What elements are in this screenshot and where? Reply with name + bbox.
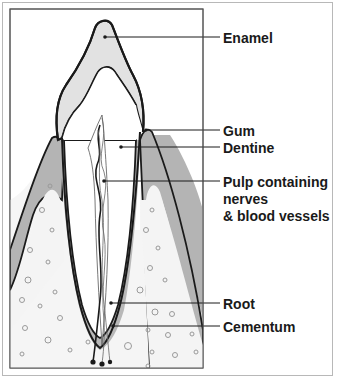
label-pulp-line1: Pulp containing [223,174,330,191]
nerve-end-2 [99,361,104,366]
root-dot [109,301,113,305]
nerve-end-3 [108,360,112,364]
label-pulp-line3: & blood vessels [223,208,330,225]
label-cementum: Cementum [223,319,295,335]
label-pulp-line2: nerves [223,191,330,208]
label-gum: Gum [223,123,255,139]
label-dentine: Dentine [223,140,274,156]
enamel-dot [103,35,107,39]
nerve-end-1 [90,359,95,364]
label-pulp: Pulp containing nerves & blood vessels [223,174,330,225]
label-root: Root [223,296,255,312]
gum-dot [145,129,148,132]
cementum-dot [111,324,115,328]
pulp-dot [102,179,106,183]
label-enamel: Enamel [223,30,273,46]
dentine-dot [119,145,123,149]
